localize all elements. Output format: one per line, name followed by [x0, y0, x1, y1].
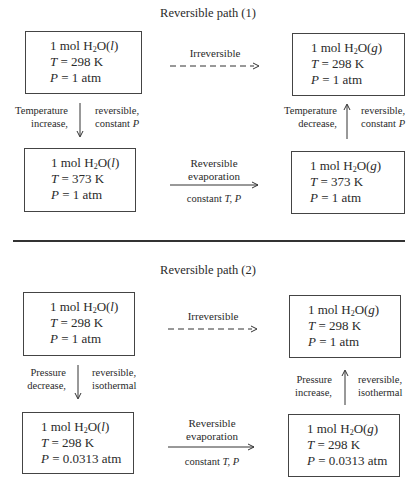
path2-gas-low-pressure-box: 1 mol H2O(g) T = 298 K P = 0.0313 atm: [288, 414, 400, 477]
path2-start-state-box: 1 mol H2O(l) T = 298 K P = 1 atm: [23, 292, 135, 356]
path2-right-step-label: Pressure increase,: [270, 373, 332, 399]
substance-line: 1 mol H2O(g): [290, 302, 400, 318]
pressure-line: P = 1 atm: [293, 72, 404, 88]
pressure-line: P = 1 atm: [25, 187, 135, 203]
temperature-line: T = 298 K: [290, 318, 400, 334]
path1-evaporation-condition: constant T, P: [168, 192, 260, 205]
path1-gas-373k-box: 1 mol H2O(g) T = 373 K P = 1 atm: [291, 151, 405, 214]
path1-end-state-box: 1 mol H2O(g) T = 298 K P = 1 atm: [292, 33, 405, 96]
path2-end-state-box: 1 mol H2O(g) T = 298 K P = 1 atm: [289, 295, 401, 358]
pressure-line: P = 1 atm: [292, 190, 404, 206]
path2-right-step-conditions: reversible, isothermal: [358, 373, 402, 399]
substance-line: 1 mol H2O(l): [25, 155, 135, 171]
step-label-line: Temperature: [262, 104, 337, 117]
path2-evaporation-condition: constant T, P: [166, 455, 258, 468]
path2-irreversible-label: Irreversible: [168, 310, 258, 323]
path2-evaporation-label: Reversible evaporation: [166, 417, 258, 443]
temperature-line: T = 298 K: [23, 435, 133, 451]
path1-start-state-box: 1 mol H2O(l) T = 298 K P = 1 atm: [25, 31, 142, 94]
pressure-line: P = 0.0313 atm: [23, 451, 133, 467]
step-label-line: increase,: [270, 386, 332, 399]
substance-line: 1 mol H2O(l): [24, 299, 134, 315]
pressure-line: P = 1 atm: [26, 70, 141, 86]
path1-irreversible-label: Irreversible: [170, 47, 260, 60]
substance-line: 1 mol H2O(l): [26, 38, 141, 54]
arrow-right-icon: [166, 442, 262, 452]
temperature-line: T = 373 K: [292, 174, 404, 190]
path2-liquid-low-pressure-box: 1 mol H2O(l) T = 298 K P = 0.0313 atm: [22, 412, 134, 474]
path1-left-step-conditions: reversible, constant P: [95, 104, 139, 130]
step-label-line: Temperature: [0, 104, 68, 117]
dashed-arrow-icon: [168, 60, 264, 72]
step-label-line: Pressure: [270, 373, 332, 386]
temperature-line: T = 373 K: [25, 171, 135, 187]
dashed-arrow-icon: [166, 323, 262, 335]
pressure-line: P = 1 atm: [24, 331, 134, 347]
arrow-label-line: Reversible: [168, 157, 260, 170]
step-condition-line: isothermal: [358, 386, 402, 399]
path2-title: Reversible path (2): [0, 263, 416, 278]
path2-left-step-label: Pressure decrease,: [0, 366, 66, 392]
substance-line: 1 mol H2O(g): [289, 421, 399, 437]
step-label-line: increase,: [0, 117, 68, 130]
substance-line: 1 mol H2O(g): [292, 158, 404, 174]
arrow-down-icon: [73, 365, 83, 401]
step-condition-line: reversible,: [358, 373, 402, 386]
step-condition-line: reversible,: [361, 104, 405, 117]
substance-line: 1 mol H2O(g): [293, 40, 404, 56]
step-label-line: decrease,: [262, 117, 337, 130]
arrow-up-icon: [342, 103, 352, 139]
step-label-line: decrease,: [0, 379, 66, 392]
substance-line: 1 mol H2O(l): [23, 419, 133, 435]
step-condition-line: isothermal: [92, 379, 136, 392]
arrow-label-line: Reversible: [166, 417, 258, 430]
pressure-line: P = 0.0313 atm: [289, 453, 399, 469]
temperature-line: T = 298 K: [24, 315, 134, 331]
path1-title: Reversible path (1): [0, 6, 416, 21]
pressure-line: P = 1 atm: [290, 334, 400, 350]
step-condition-line: reversible,: [92, 366, 136, 379]
temperature-line: T = 298 K: [289, 437, 399, 453]
path1-right-step-conditions: reversible, constant P: [361, 104, 405, 130]
temperature-line: T = 298 K: [293, 56, 404, 72]
path1-liquid-373k-box: 1 mol H2O(l) T = 373 K P = 1 atm: [24, 148, 136, 212]
arrow-down-icon: [75, 103, 85, 139]
step-label-line: Pressure: [0, 366, 66, 379]
path1-right-step-label: Temperature decrease,: [262, 104, 337, 130]
section-divider: [13, 240, 405, 242]
step-condition-line: constant P: [95, 117, 139, 130]
temperature-line: T = 298 K: [26, 54, 141, 70]
step-condition-line: constant P: [361, 117, 405, 130]
step-condition-line: reversible,: [95, 104, 139, 117]
arrow-up-icon: [340, 369, 350, 405]
arrow-right-icon: [168, 180, 264, 190]
path1-left-step-label: Temperature increase,: [0, 104, 68, 130]
path2-left-step-conditions: reversible, isothermal: [92, 366, 136, 392]
